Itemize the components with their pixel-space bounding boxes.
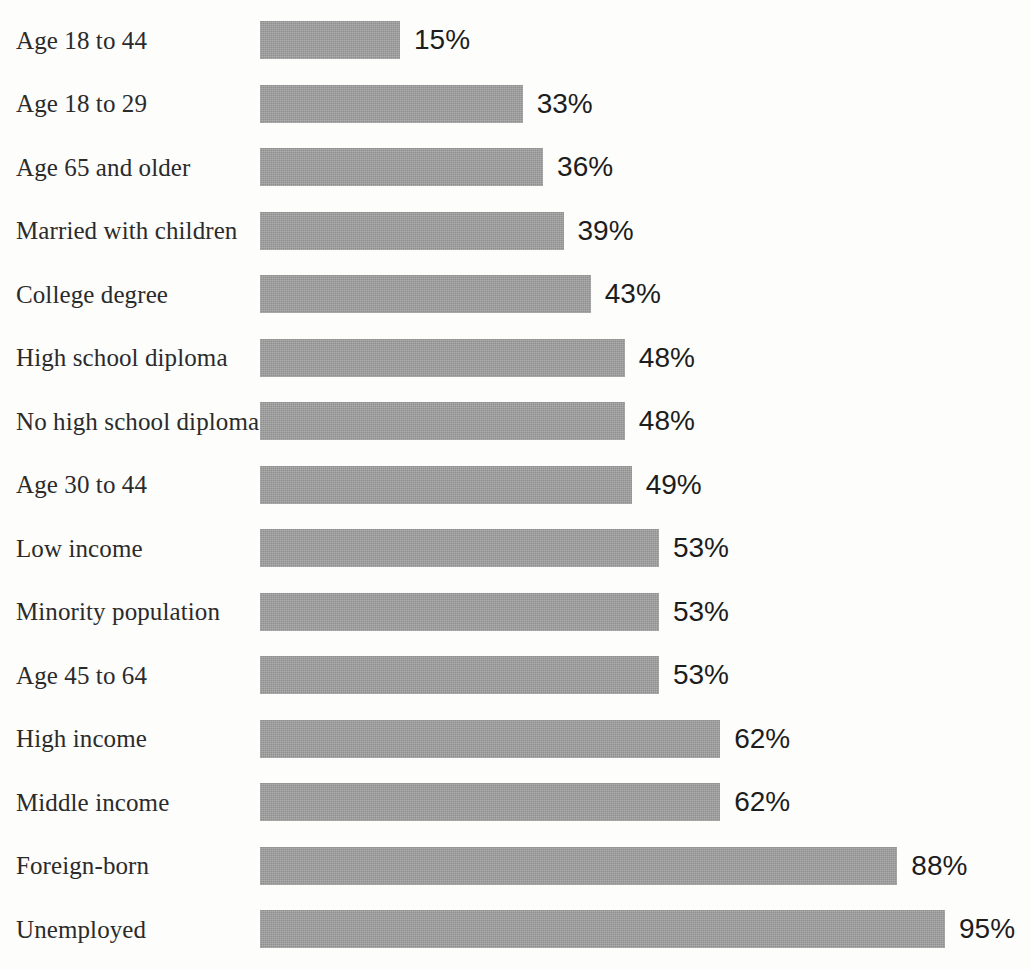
bar-row: No high school diploma48% [0, 390, 1031, 454]
bar-row: Married with children39% [0, 199, 1031, 263]
bar-fill [260, 212, 564, 250]
bar-fill [260, 21, 400, 59]
bar-track [260, 847, 897, 885]
bar-row: Age 18 to 2933% [0, 72, 1031, 136]
bar-track [260, 466, 632, 504]
bar-category-label: Married with children [16, 199, 237, 263]
bar-fill [260, 529, 659, 567]
bar-fill [260, 720, 720, 758]
bar-fill [260, 339, 625, 377]
bar-value-label: 39% [578, 212, 634, 250]
bar-track [260, 593, 659, 631]
bar-category-label: Middle income [16, 771, 169, 835]
bar-track [260, 21, 400, 59]
bar-value-label: 43% [605, 275, 661, 313]
bar-fill [260, 593, 659, 631]
bar-category-label: No high school diploma [16, 390, 259, 454]
bar-track [260, 783, 720, 821]
bar-row: Age 30 to 4449% [0, 453, 1031, 517]
bar-fill [260, 466, 632, 504]
bar-value-label: 53% [673, 529, 729, 567]
bar-row: Age 18 to 4415% [0, 9, 1031, 73]
bar-row: Unemployed95% [0, 898, 1031, 962]
bar-value-label: 88% [911, 847, 967, 885]
bar-fill [260, 910, 945, 948]
bar-value-label: 62% [734, 720, 790, 758]
bar-track [260, 275, 591, 313]
bar-track [260, 910, 945, 948]
bar-row: High school diploma48% [0, 326, 1031, 390]
bar-row: Age 45 to 6453% [0, 644, 1031, 708]
bar-value-label: 48% [639, 402, 695, 440]
bar-track [260, 720, 720, 758]
bar-track [260, 529, 659, 567]
horizontal-bar-chart: Age 18 to 4415%Age 18 to 2933%Age 65 and… [0, 0, 1031, 969]
bar-category-label: Low income [16, 517, 143, 581]
bar-fill [260, 148, 543, 186]
bar-row: Foreign-born88% [0, 834, 1031, 898]
bar-track [260, 85, 523, 123]
bar-value-label: 36% [557, 148, 613, 186]
bar-fill [260, 85, 523, 123]
bar-row: Age 65 and older36% [0, 136, 1031, 200]
bar-track [260, 339, 625, 377]
bar-value-label: 15% [414, 21, 470, 59]
bar-row: Middle income62% [0, 771, 1031, 835]
bar-row: Low income53% [0, 517, 1031, 581]
bar-track [260, 656, 659, 694]
bar-category-label: Age 30 to 44 [16, 453, 147, 517]
bar-value-label: 62% [734, 783, 790, 821]
bar-category-label: College degree [16, 263, 168, 327]
bar-category-label: Foreign-born [16, 834, 149, 898]
bar-fill [260, 783, 720, 821]
bar-category-label: Minority population [16, 580, 220, 644]
bar-row: College degree43% [0, 263, 1031, 327]
bar-value-label: 49% [646, 466, 702, 504]
bar-value-label: 53% [673, 656, 729, 694]
bar-value-label: 95% [959, 910, 1015, 948]
bar-category-label: Unemployed [16, 898, 146, 962]
bar-track [260, 148, 543, 186]
bar-category-label: Age 18 to 29 [16, 72, 147, 136]
bar-track [260, 212, 564, 250]
bar-row: High income62% [0, 707, 1031, 771]
bar-category-label: Age 18 to 44 [16, 9, 147, 73]
bar-fill [260, 656, 659, 694]
bar-category-label: High income [16, 707, 147, 771]
bar-category-label: Age 65 and older [16, 136, 190, 200]
bar-row: Minority population53% [0, 580, 1031, 644]
bar-fill [260, 847, 897, 885]
bar-category-label: High school diploma [16, 326, 228, 390]
bar-fill [260, 275, 591, 313]
bar-value-label: 53% [673, 593, 729, 631]
bar-track [260, 402, 625, 440]
bar-category-label: Age 45 to 64 [16, 644, 147, 708]
bar-value-label: 33% [537, 85, 593, 123]
bar-value-label: 48% [639, 339, 695, 377]
bar-fill [260, 402, 625, 440]
